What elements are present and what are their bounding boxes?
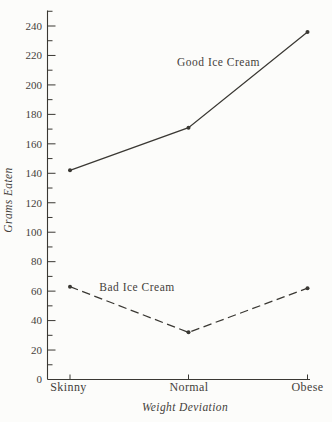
good-ice-cream-series-label: Good Ice Cream bbox=[177, 56, 260, 68]
data-point-marker bbox=[68, 285, 72, 289]
y-tick-label: 160 bbox=[26, 138, 43, 150]
good-ice-cream-line bbox=[70, 32, 308, 170]
bad-ice-cream-series-label: Bad Ice Cream bbox=[99, 281, 174, 293]
ice-cream-chart-canvas: 020406080100120140160180200220240 Good I… bbox=[0, 0, 332, 422]
y-tick-label: 200 bbox=[26, 79, 43, 91]
y-tick-label: 80 bbox=[31, 255, 43, 267]
data-point-marker bbox=[187, 126, 191, 130]
data-point-marker bbox=[187, 330, 191, 334]
data-point-marker bbox=[306, 30, 310, 34]
y-axis-title: Grams Eaten bbox=[2, 167, 14, 232]
x-category-label-obese: Obese bbox=[292, 380, 324, 394]
y-tick-label: 100 bbox=[26, 226, 43, 238]
data-point-marker bbox=[306, 286, 310, 290]
axes-layer: 020406080100120140160180200220240 bbox=[26, 10, 311, 385]
y-tick-label: 240 bbox=[26, 20, 43, 32]
y-tick-label: 120 bbox=[26, 197, 43, 209]
x-category-label-normal: Normal bbox=[169, 380, 208, 394]
ice-cream-interaction-figure: 020406080100120140160180200220240 Good I… bbox=[0, 0, 332, 422]
data-point-marker bbox=[68, 168, 72, 172]
x-axis-title: Weight Deviation bbox=[142, 401, 228, 414]
y-tick-label: 20 bbox=[31, 344, 43, 356]
y-tick-label: 0 bbox=[37, 373, 43, 385]
y-tick-label: 40 bbox=[31, 314, 43, 326]
y-tick-label: 140 bbox=[26, 167, 43, 179]
y-tick-label: 60 bbox=[31, 285, 43, 297]
bad-ice-cream-line bbox=[70, 287, 308, 333]
y-tick-label: 180 bbox=[26, 108, 43, 120]
y-tick-label: 220 bbox=[26, 49, 43, 61]
x-category-label-skinny: Skinny bbox=[50, 380, 86, 394]
